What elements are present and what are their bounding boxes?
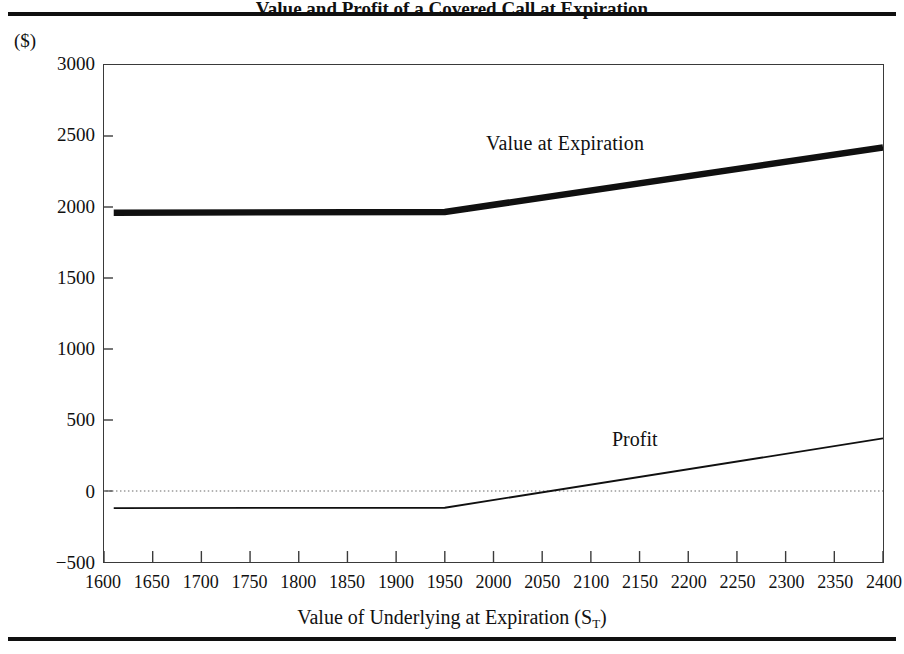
x-axis-title-text: Value of Underlying at Expiration (S: [297, 606, 592, 628]
y-tick-label: −500: [56, 552, 95, 574]
x-tick-label: 1800: [280, 572, 316, 593]
x-axis-title-suffix: ): [600, 606, 607, 628]
x-tick-label: 1850: [329, 572, 365, 593]
y-tick-label: 0: [86, 481, 96, 503]
y-axis-ticks: [104, 136, 113, 491]
x-tick-label: 2050: [524, 572, 560, 593]
value-at-expiration-label: Value at Expiration: [486, 132, 644, 155]
bottom-rule: [8, 637, 896, 641]
x-tick-label: 1900: [378, 572, 414, 593]
y-tick-label: 3000: [57, 53, 95, 75]
y-tick-label: 1000: [57, 338, 95, 360]
x-tick-label: 1650: [134, 572, 170, 593]
profit-line: [114, 438, 883, 508]
x-tick-label: 2200: [671, 572, 707, 593]
figure-page: Value and Profit of a Covered Call at Ex…: [0, 0, 904, 654]
top-rule: Value and Profit of a Covered Call at Ex…: [8, 12, 896, 16]
x-axis-tick-labels: 1600165017001750180018501900195020002050…: [103, 572, 884, 600]
x-tick-label: 2350: [817, 572, 853, 593]
profit-label: Profit: [612, 428, 658, 451]
y-tick-label: 2000: [57, 196, 95, 218]
y-tick-label: 500: [67, 409, 96, 431]
x-tick-label: 1950: [427, 572, 463, 593]
x-tick-label: 2100: [573, 572, 609, 593]
x-tick-label: 2000: [476, 572, 512, 593]
x-tick-label: 2400: [866, 572, 902, 593]
x-axis-title-subscript: T: [592, 616, 600, 631]
figure-caption-clip: Value and Profit of a Covered Call at Ex…: [8, 0, 896, 24]
y-axis-tick-labels: 300025002000150010005000−500: [0, 64, 95, 563]
x-axis-ticks: [104, 551, 883, 562]
x-tick-label: 1600: [85, 572, 121, 593]
value-at-expiration-line: [114, 147, 883, 212]
x-tick-label: 2150: [622, 572, 658, 593]
x-tick-label: 1750: [231, 572, 267, 593]
y-tick-label: 1500: [57, 267, 95, 289]
x-tick-label: 1700: [183, 572, 219, 593]
y-tick-label: 2500: [57, 124, 95, 146]
x-tick-label: 2250: [720, 572, 756, 593]
x-axis-title: Value of Underlying at Expiration (ST): [0, 606, 904, 629]
x-tick-label: 2300: [768, 572, 804, 593]
figure-caption: Value and Profit of a Covered Call at Ex…: [8, 0, 896, 20]
y-axis-unit-label: ($): [14, 30, 36, 52]
